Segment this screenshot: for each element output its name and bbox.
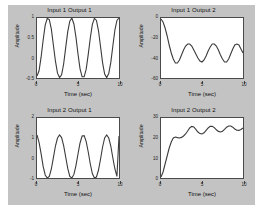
y-tick-label: 0 (134, 14, 158, 19)
y-tick-label: -60 (134, 76, 158, 81)
matlab-figure: Input 1 Output 1 Amplitude -0.500.51 051… (8, 5, 255, 205)
x-axis-label: Time (sec) (36, 191, 120, 197)
subplot-title: Input 1 Output 2 (132, 7, 255, 13)
x-tick-label: 5 (71, 182, 85, 187)
plot-area (160, 117, 244, 179)
y-tick-label: -1 (10, 176, 34, 181)
x-tick-label: 10 (113, 82, 127, 87)
x-tick-label: 5 (195, 182, 209, 187)
y-axis-ticks: 0102030 (132, 117, 158, 179)
y-tick-label: -0.5 (10, 76, 34, 81)
y-tick-label: 1 (10, 135, 34, 140)
y-tick-label: 20 (134, 135, 158, 140)
series-path-1 (161, 19, 243, 63)
x-axis-label: Time (sec) (160, 191, 244, 197)
x-tick-label: 0 (29, 182, 43, 187)
series-line (37, 118, 119, 178)
y-tick-label: 0.5 (10, 35, 34, 40)
y-tick-label: -40 (134, 56, 158, 61)
x-tick-label: 10 (237, 182, 251, 187)
plot-area (160, 17, 244, 79)
x-tick-label: 0 (153, 182, 167, 187)
subplot-input-1-output-1: Input 1 Output 1 Amplitude -0.500.51 051… (8, 5, 131, 105)
subplot-title: Input 1 Output 1 (8, 7, 131, 13)
series-line (37, 18, 119, 78)
series-line (161, 18, 243, 78)
y-tick-label: 0 (10, 56, 34, 61)
x-axis-ticks: 0510 (36, 180, 120, 188)
x-tick-label: 10 (237, 82, 251, 87)
series-line (161, 118, 243, 178)
subplot-grid: Input 1 Output 1 Amplitude -0.500.51 051… (8, 5, 255, 205)
series-path-3 (161, 126, 243, 177)
plot-area (36, 117, 120, 179)
subplot-input-2-output-1: Input 2 Output 1 Amplitude -1012 0510 Ti… (8, 105, 131, 205)
y-axis-ticks: -60-40-200 (132, 17, 158, 79)
y-axis-ticks: -0.500.51 (8, 17, 34, 79)
x-axis-label: Time (sec) (36, 91, 120, 97)
y-tick-label: 0 (134, 176, 158, 181)
y-tick-label: -20 (134, 35, 158, 40)
y-tick-label: 30 (134, 114, 158, 119)
y-tick-label: 2 (10, 114, 34, 119)
y-tick-label: 10 (134, 156, 158, 161)
x-tick-label: 0 (29, 82, 43, 87)
x-tick-label: 0 (153, 82, 167, 87)
y-axis-ticks: -1012 (8, 117, 34, 179)
subplot-title: Input 2 Output 1 (8, 107, 131, 113)
subplot-title: Input 2 Output 2 (132, 107, 255, 113)
y-tick-label: 0 (10, 156, 34, 161)
subplot-input-1-output-2: Input 1 Output 2 Amplitude -60-40-200 05… (132, 5, 255, 105)
x-tick-label: 5 (195, 82, 209, 87)
x-tick-label: 10 (113, 182, 127, 187)
x-axis-label: Time (sec) (160, 91, 244, 97)
x-tick-label: 5 (71, 82, 85, 87)
series-path-0 (37, 18, 119, 78)
x-axis-ticks: 0510 (36, 80, 120, 88)
series-path-2 (37, 135, 119, 178)
y-tick-label: 1 (10, 14, 34, 19)
x-axis-ticks: 0510 (160, 80, 244, 88)
x-axis-ticks: 0510 (160, 180, 244, 188)
subplot-input-2-output-2: Input 2 Output 2 Amplitude 0102030 0510 … (132, 105, 255, 205)
plot-area (36, 17, 120, 79)
